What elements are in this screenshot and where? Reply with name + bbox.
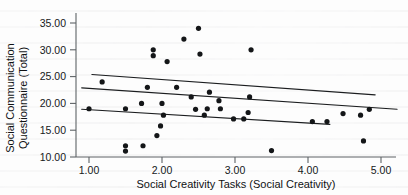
data-point — [161, 113, 166, 118]
y-axis-title-line2: Questionnaire (Total) — [17, 47, 29, 149]
data-point — [165, 59, 170, 64]
data-point — [241, 116, 246, 121]
scatter-plot-figure: 10.0015.0020.0025.0030.0035.00 1.002.003… — [0, 0, 408, 195]
x-tick-label: 4.00 — [298, 164, 319, 176]
middle-fit — [82, 88, 397, 109]
x-tick-label: 1.00 — [79, 164, 100, 176]
data-point — [247, 94, 252, 99]
axis-tick-marks — [70, 23, 381, 163]
plot-canvas: 10.0015.0020.0025.0030.0035.00 1.002.003… — [0, 0, 408, 195]
data-point — [140, 143, 145, 148]
data-point — [189, 94, 194, 99]
data-point — [202, 113, 207, 118]
data-point — [218, 106, 223, 111]
x-tick-label: 5.00 — [371, 164, 392, 176]
data-point — [193, 107, 198, 112]
x-axis-title: Social Creativity Tasks (Social Creativi… — [136, 178, 335, 190]
y-tick-label: 20.00 — [40, 97, 66, 109]
data-point — [196, 26, 201, 31]
data-point — [246, 110, 251, 115]
data-point — [231, 116, 236, 121]
data-point — [86, 106, 91, 111]
data-point — [151, 47, 156, 52]
y-tick-label: 30.00 — [40, 44, 66, 56]
data-point — [174, 85, 179, 90]
data-point — [123, 143, 128, 148]
x-axis-tick-labels: 1.002.003.004.005.00 — [79, 164, 392, 176]
x-tick-label: 3.00 — [225, 164, 246, 176]
data-point — [361, 138, 366, 143]
data-point — [181, 36, 186, 41]
data-point — [139, 101, 144, 106]
data-point — [145, 85, 150, 90]
data-point — [197, 51, 202, 56]
data-point — [324, 119, 329, 124]
data-point — [123, 149, 128, 154]
fit-lines-group — [82, 74, 397, 124]
data-point — [269, 148, 274, 153]
y-tick-label: 10.00 — [40, 151, 66, 163]
data-point — [159, 101, 164, 106]
y-tick-label: 25.00 — [40, 70, 66, 82]
y-tick-label: 15.00 — [40, 124, 66, 136]
data-point — [100, 79, 105, 84]
data-point — [154, 133, 159, 138]
y-axis-title-line1: Social Communication — [4, 43, 16, 152]
data-points-group — [86, 26, 372, 154]
data-point — [340, 111, 345, 116]
data-point — [248, 47, 253, 52]
data-point — [367, 107, 372, 112]
x-tick-label: 2.00 — [152, 164, 173, 176]
data-point — [310, 119, 315, 124]
data-point — [207, 90, 212, 95]
data-point — [216, 98, 221, 103]
y-axis-tick-labels: 10.0015.0020.0025.0030.0035.00 — [40, 17, 66, 163]
data-point — [358, 113, 363, 118]
data-point — [151, 53, 156, 58]
data-point — [158, 123, 163, 128]
data-point — [205, 106, 210, 111]
data-point — [123, 106, 128, 111]
y-tick-label: 35.00 — [40, 17, 66, 29]
